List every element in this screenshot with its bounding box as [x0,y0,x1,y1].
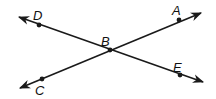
labels-group: DABCE [33,3,182,98]
label-d: D [33,8,42,23]
label-a: A [171,3,181,18]
intersecting-lines-diagram: DABCE [0,0,216,99]
point-d [37,23,42,28]
point-a [177,18,182,23]
diagram-canvas: DABCE [0,0,216,99]
label-e: E [173,60,182,75]
label-b: B [101,34,110,49]
label-c: C [35,83,45,98]
point-c [40,77,45,82]
